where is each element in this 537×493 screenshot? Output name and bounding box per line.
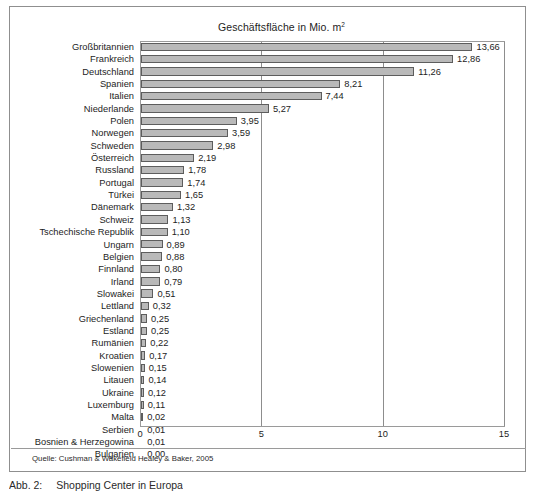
bar-track: 2,98 [141, 140, 505, 152]
bar-value-label: 0,17 [149, 350, 167, 362]
bar-track: 0,01 [141, 436, 505, 448]
bar[interactable] [141, 252, 162, 260]
bar[interactable] [141, 339, 146, 347]
category-label: Deutschland [10, 66, 134, 78]
bar[interactable] [141, 203, 173, 211]
bar-track: 1,10 [141, 226, 505, 238]
bar[interactable] [141, 166, 184, 174]
bar[interactable] [141, 265, 160, 273]
category-label: Tschechische Republik [10, 226, 134, 238]
x-tick-label-10: 10 [377, 429, 387, 439]
category-label: Finnland [10, 263, 134, 275]
bar-track: 0,02 [141, 411, 505, 423]
category-label: Irland [10, 276, 134, 288]
bar[interactable] [141, 277, 160, 285]
bar-value-label: 1,65 [185, 189, 203, 201]
bar-track: 1,78 [141, 164, 505, 176]
category-label: Luxemburg [10, 399, 134, 411]
bar-row: Spanien8,21 [10, 78, 527, 90]
bar-row: Malta0,02 [10, 411, 527, 423]
bar[interactable] [141, 55, 453, 63]
category-label: Russland [10, 164, 134, 176]
bar-row: Norwegen3,59 [10, 127, 527, 139]
bar-rows: Großbritannien13,66Frankreich12,86Deutsc… [10, 41, 527, 461]
bar[interactable] [141, 240, 163, 248]
bar[interactable] [141, 364, 145, 372]
bar[interactable] [141, 104, 269, 112]
bar-row: Irland0,79 [10, 276, 527, 288]
category-label: Lettland [10, 300, 134, 312]
bar[interactable] [141, 117, 237, 125]
bar[interactable] [141, 67, 414, 75]
bar-value-label: 1,10 [172, 226, 190, 238]
bar-track: 1,74 [141, 177, 505, 189]
category-label: Ukraine [10, 387, 134, 399]
bar[interactable] [141, 327, 147, 335]
bar-track: 0,25 [141, 325, 505, 337]
category-label: Litauen [10, 374, 134, 386]
bar-value-label: 5,27 [273, 103, 291, 115]
bar-row: Deutschland11,26 [10, 66, 527, 78]
bar-track: 3,59 [141, 127, 505, 139]
bar[interactable] [141, 43, 472, 51]
bar-row: Lettland0,32 [10, 300, 527, 312]
category-label: Frankreich [10, 53, 134, 65]
bar-value-label: 0,15 [149, 362, 167, 374]
bar[interactable] [141, 178, 183, 186]
x-tick-label-5: 5 [259, 429, 264, 439]
bar-value-label: 0,25 [151, 325, 169, 337]
category-label: Belgien [10, 251, 134, 263]
bar-track: 0,80 [141, 263, 505, 275]
bar-value-label: 0,12 [148, 387, 166, 399]
bar[interactable] [141, 141, 213, 149]
bar[interactable] [141, 228, 168, 236]
bar[interactable] [141, 302, 149, 310]
bar[interactable] [141, 154, 194, 162]
bar-track: 0,22 [141, 337, 505, 349]
bar[interactable] [141, 388, 144, 396]
category-label: Bosnien & Herzegowina [10, 436, 134, 448]
bar[interactable] [141, 215, 168, 223]
bar[interactable] [141, 314, 147, 322]
bar-track: 0,14 [141, 374, 505, 386]
bar[interactable] [141, 376, 144, 384]
category-label: Portugal [10, 177, 134, 189]
bar-value-label: 2,19 [198, 152, 216, 164]
category-label: Serbien [10, 424, 134, 436]
bar-value-label: 12,86 [457, 53, 480, 65]
bar-row: Türkei1,65 [10, 189, 527, 201]
bar-track: 1,32 [141, 201, 505, 213]
category-label: Dänemark [10, 201, 134, 213]
bar-track: 0,15 [141, 362, 505, 374]
bar-value-label: 1,78 [188, 164, 206, 176]
bar-row: Portugal1,74 [10, 177, 527, 189]
bar[interactable] [141, 129, 228, 137]
category-label: Großbritannien [10, 41, 134, 53]
category-label: Estland [10, 325, 134, 337]
source-note: Quelle: Cushman & Wakefield Healey & Bak… [32, 454, 213, 463]
bar-row: Frankreich12,86 [10, 53, 527, 65]
bar-value-label: 11,26 [418, 66, 441, 78]
bar-row: Luxemburg0,11 [10, 399, 527, 411]
bar[interactable] [141, 413, 143, 421]
bar-value-label: 0,80 [164, 263, 182, 275]
bar-track: 1,13 [141, 214, 505, 226]
bar-row: Niederlande5,27 [10, 103, 527, 115]
bar[interactable] [141, 92, 322, 100]
bar[interactable] [141, 351, 145, 359]
bar-track: 0,51 [141, 288, 505, 300]
category-label: Norwegen [10, 127, 134, 139]
figure-caption-number: Abb. 2: [9, 479, 42, 491]
bar[interactable] [141, 289, 153, 297]
category-label: Österreich [10, 152, 134, 164]
bar[interactable] [141, 401, 144, 409]
bar[interactable] [141, 191, 181, 199]
bar-value-label: 0,14 [148, 374, 166, 386]
bar[interactable] [141, 80, 340, 88]
bar-row: Bosnien & Herzegowina0,01 [10, 436, 527, 448]
bar-track: 0,89 [141, 239, 505, 251]
bar-row: Polen3,95 [10, 115, 527, 127]
source-divider [11, 448, 526, 449]
bar-value-label: 0,51 [157, 288, 175, 300]
bar-row: Russland1,78 [10, 164, 527, 176]
